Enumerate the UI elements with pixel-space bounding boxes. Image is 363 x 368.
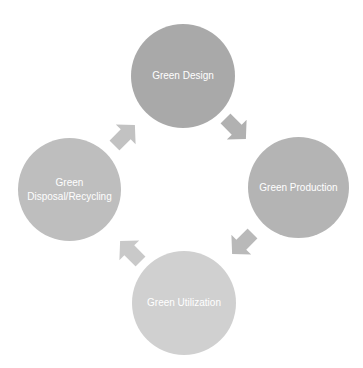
- node-green-utilization: Green Utilization: [132, 251, 236, 355]
- cycle-diagram: Green Design Green Production Green Util…: [0, 0, 363, 368]
- arrow-up-left-icon: [109, 230, 151, 272]
- node-green-production: Green Production: [248, 137, 349, 238]
- node-label-line2: Disposal/Recycling: [27, 190, 111, 204]
- node-label: Green Production: [259, 181, 337, 195]
- node-label-line1: Green: [27, 176, 111, 190]
- node-label: Green Utilization: [147, 296, 221, 310]
- arrow-down-right-icon: [215, 108, 257, 150]
- node-green-design: Green Design: [131, 24, 235, 128]
- node-green-disposal-recycling: Green Disposal/Recycling: [18, 138, 121, 241]
- arrow-down-left-icon: [221, 223, 263, 265]
- node-label: Green Design: [152, 69, 214, 83]
- arrow-up-right-icon: [104, 114, 146, 156]
